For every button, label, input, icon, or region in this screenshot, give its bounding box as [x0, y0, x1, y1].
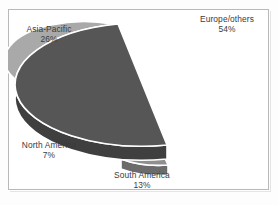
slice-label-asia-pacific-value: 26%: [12, 34, 86, 44]
slice-label-south-america: South America 13%: [96, 170, 188, 190]
slice-label-south-america-name: South America: [114, 170, 170, 180]
slice-label-europe-others: Europe/others 54%: [186, 14, 268, 34]
slice-label-north-america-name: North America: [22, 140, 76, 150]
slice-label-europe-others-value: 54%: [186, 24, 268, 34]
slice-label-north-america-value: 7%: [6, 150, 92, 160]
slice-label-asia-pacific-name: Asia-Pacific: [27, 24, 72, 34]
figure-canvas: Europe/others 54% Asia-Pacific 26% North…: [0, 0, 279, 205]
slice-label-north-america: North America 7%: [6, 140, 92, 160]
slice-label-asia-pacific: Asia-Pacific 26%: [12, 24, 86, 44]
clipped-bottom-caption: [8, 196, 271, 205]
slice-label-europe-others-name: Europe/others: [200, 14, 254, 24]
slice-label-south-america-value: 13%: [96, 180, 188, 190]
